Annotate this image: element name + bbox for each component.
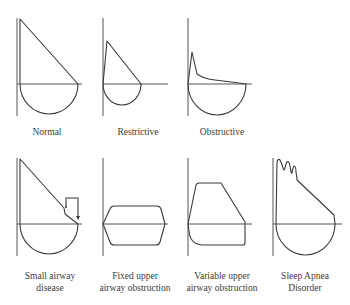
restrictive-loop — [103, 41, 141, 105]
label-line: airway obstruction — [187, 282, 258, 294]
label-line: airway obstruction — [100, 282, 171, 294]
label-fixed-upper: Fixed upper airway obstruction — [100, 270, 171, 294]
label-line: Small airway — [25, 270, 75, 282]
label-line: Fixed upper — [100, 270, 171, 282]
label-line: Disorder — [281, 282, 329, 294]
label-sleep-apnea: Sleep Apnea Disorder — [281, 270, 329, 294]
small-airway-loop — [20, 159, 78, 254]
label-line: Restrictive — [117, 126, 158, 138]
label-variable-upper: Variable upper airway obstruction — [187, 270, 258, 294]
label-small-airway: Small airway disease — [25, 270, 75, 294]
panel-obstructive — [188, 18, 252, 116]
label-normal: Normal — [32, 126, 61, 138]
marker-dot — [65, 206, 67, 208]
label-obstructive: Obstructive — [200, 126, 244, 138]
panel-normal — [17, 18, 82, 116]
label-line: Variable upper — [187, 270, 258, 282]
fixed-upper-loop — [103, 206, 165, 245]
label-line: Normal — [32, 126, 61, 138]
arrow-head-icon — [76, 216, 80, 220]
label-restrictive: Restrictive — [117, 126, 158, 138]
variable-upper-loop — [188, 183, 245, 245]
flow-volume-diagram — [0, 0, 350, 305]
label-line: Sleep Apnea — [281, 270, 329, 282]
label-line: disease — [25, 282, 75, 294]
label-line: Obstructive — [200, 126, 244, 138]
panel-variable-upper — [188, 158, 252, 256]
shift-bracket — [66, 198, 78, 218]
panel-sleep-apnea — [273, 158, 342, 256]
panel-restrictive — [103, 18, 168, 116]
panel-fixed-upper — [103, 158, 168, 256]
normal-loop — [20, 19, 78, 114]
sleep-apnea-loop — [276, 159, 335, 255]
panel-small-airway — [17, 158, 82, 256]
